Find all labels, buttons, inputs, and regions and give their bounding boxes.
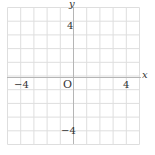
x-tick-neg4: −4 bbox=[14, 80, 29, 90]
y-axis-label: y bbox=[69, 0, 75, 9]
x-axis-label: x bbox=[142, 70, 148, 80]
y-tick-neg4: −4 bbox=[61, 126, 76, 136]
y-tick-4: 4 bbox=[67, 21, 73, 31]
origin-label: O bbox=[63, 79, 72, 90]
coordinate-grid bbox=[0, 0, 155, 155]
x-tick-4: 4 bbox=[123, 80, 129, 90]
